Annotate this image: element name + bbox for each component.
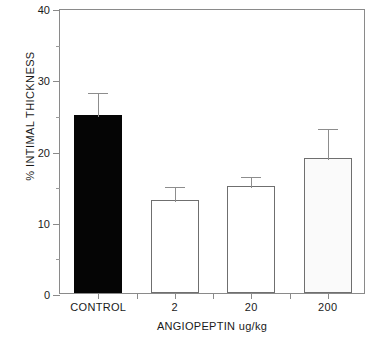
y-tick-label: 0	[44, 289, 50, 301]
plot-area: 010203040 CONTROL220200	[59, 9, 365, 294]
chart-figure: % INTIMAL THICKNESS 010203040 CONTROL220…	[0, 0, 378, 340]
y-tick-label: 30	[38, 75, 50, 87]
x-tick-mark	[290, 293, 291, 299]
y-tick-minor-mark	[56, 259, 60, 260]
y-tick-label: 20	[38, 147, 50, 159]
y-tick-mark	[53, 153, 60, 154]
x-tick-label-200: 200	[318, 301, 337, 313]
x-tick-label-2: 2	[172, 301, 178, 313]
x-axis-title: ANGIOPEPTIN ug/kg	[59, 320, 365, 332]
y-tick-label: 40	[38, 4, 50, 16]
bar-200	[304, 158, 352, 293]
y-tick-minor-mark	[56, 46, 60, 47]
y-tick-mark	[53, 10, 60, 11]
y-tick-minor-mark	[56, 188, 60, 189]
y-tick-label: 10	[38, 218, 50, 230]
error-bar-line-control	[98, 93, 99, 117]
error-bar-cap-control	[88, 93, 108, 94]
x-tick-mark	[251, 293, 252, 299]
bar-control	[74, 115, 122, 293]
error-bar-cap-2	[165, 187, 185, 188]
x-tick-mark	[137, 293, 138, 299]
error-bar-cap-200	[318, 129, 338, 130]
x-tick-label-20: 20	[245, 301, 258, 313]
bar-2	[151, 200, 199, 293]
bar-20	[227, 186, 275, 293]
error-bar-line-200	[328, 129, 329, 160]
y-tick-mark	[53, 295, 60, 296]
error-bar-line-20	[251, 177, 252, 188]
error-bar-cap-20	[241, 177, 261, 178]
error-bar-line-2	[175, 187, 176, 203]
x-tick-mark	[175, 293, 176, 299]
y-tick-minor-mark	[56, 117, 60, 118]
x-tick-mark	[213, 293, 214, 299]
x-tick-label-control: CONTROL	[70, 301, 126, 313]
y-axis-title: % INTIMAL THICKNESS	[24, 6, 36, 226]
x-tick-mark	[328, 293, 329, 299]
y-tick-mark	[53, 224, 60, 225]
y-tick-mark	[53, 81, 60, 82]
x-tick-mark	[98, 293, 99, 299]
